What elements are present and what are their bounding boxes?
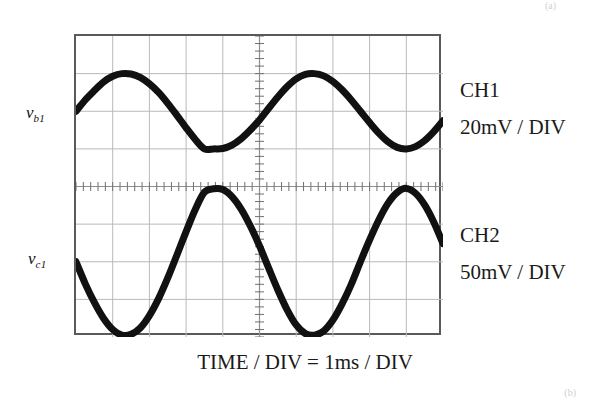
ch1-settings-block: CH1 20mV / DIV: [460, 80, 566, 138]
ch1-scale: 20mV / DIV: [460, 117, 566, 138]
oscilloscope-screen: [74, 34, 441, 335]
ch1-name: CH1: [460, 80, 566, 101]
graticule-and-traces: [76, 36, 443, 337]
ch2-settings-block: CH2 50mV / DIV: [460, 225, 566, 283]
ch1-signal-label-subscript: b1: [34, 112, 45, 124]
ch2-signal-label-base: v: [28, 249, 36, 268]
oscilloscope-figure: (a) (b) vb1 vc1 CH1 20mV / DIV CH2 50mV …: [0, 0, 610, 398]
ch2-signal-label: vc1: [28, 250, 46, 270]
ch2-scale: 50mV / DIV: [460, 262, 566, 283]
ch2-signal-label-subscript: c1: [36, 258, 47, 270]
timebase-caption: TIME / DIV = 1ms / DIV: [0, 350, 610, 375]
ch1-signal-label-base: v: [26, 103, 34, 122]
page-mark-top-right: (a): [545, 0, 556, 11]
page-mark-bottom-right: (b): [564, 387, 576, 398]
ch1-signal-label: vb1: [26, 104, 45, 124]
ch2-name: CH2: [460, 225, 566, 246]
